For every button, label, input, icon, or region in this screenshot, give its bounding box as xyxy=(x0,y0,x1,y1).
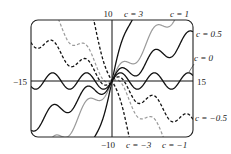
y-max-label: 10 xyxy=(104,9,114,19)
label-c-1: c = 1 xyxy=(170,9,189,19)
x-min-label: −15 xyxy=(13,77,28,87)
y-min-label: −10 xyxy=(101,140,116,150)
label-c-0: c = 0 xyxy=(194,53,214,63)
label-c-neg-0-5: c = −0.5 xyxy=(195,113,227,123)
label-c-3: c = 3 xyxy=(124,9,144,19)
label-c-neg-1: c = −1 xyxy=(162,140,187,150)
x-max-label: 15 xyxy=(197,77,207,87)
chart: 10 −10 −15 15 c = 3 c = 1 c = 0.5 c = 0 … xyxy=(0,0,231,154)
label-c-0-5: c = 0.5 xyxy=(196,29,222,39)
label-c-neg-3: c = −3 xyxy=(126,140,152,150)
